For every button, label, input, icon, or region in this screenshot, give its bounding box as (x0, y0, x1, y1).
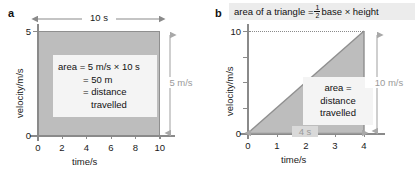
x-tick-label-0: 0 (28, 142, 48, 153)
callout-line-3: = distance (58, 86, 152, 99)
y-tick-5 (33, 31, 37, 32)
x-tick-label-3: 3 (325, 140, 345, 151)
x-tick-label-8: 8 (125, 142, 145, 153)
callout-line-1: area = (307, 82, 369, 95)
callout-line-3: travelled (307, 107, 369, 120)
callout-line-2: = 50 m (58, 74, 152, 87)
x-tick-label-2: 2 (52, 142, 72, 153)
fraction-denominator: 2 (314, 11, 320, 19)
y-axis-line (247, 24, 249, 139)
x-tick-0 (38, 135, 39, 139)
x-tick-label-6: 6 (101, 142, 121, 153)
header-formula-box: area of a triangle = 1 2 base × height (229, 3, 415, 20)
dimension-label-width: 10 s (82, 12, 116, 23)
dimension-label-height: 5 m/s (160, 77, 202, 88)
panel-a-letter: a (8, 7, 14, 19)
x-axis-title: time/s (72, 156, 97, 167)
callout-line-4: travelled (58, 99, 152, 112)
panel-b-letter: b (215, 7, 222, 19)
x-tick-4 (86, 135, 87, 139)
y-tick-minor-75 (243, 57, 247, 58)
x-tick-label-2: 2 (296, 140, 316, 151)
figure-velocity-time-graphs: a area = 5 m/s × 10 s = 50 m = distance … (0, 0, 415, 172)
x-axis-line (30, 135, 175, 137)
y-axis-title: velocity/m/s (14, 68, 25, 118)
x-axis-title: time/s (281, 154, 306, 165)
y-axis-line (37, 24, 39, 141)
dotted-guide-line-10 (249, 31, 363, 32)
callout-line-1: area = 5 m/s × 10 s (58, 61, 152, 74)
callout-area-calculation: area = 5 m/s × 10 s = 50 m = distance tr… (53, 55, 157, 117)
y-tick-minor-50 (243, 82, 247, 83)
y-tick-10 (243, 31, 247, 32)
y-tick-label-0: 0 (17, 130, 31, 141)
fraction-numerator: 1 (314, 4, 320, 11)
formula-suffix: base × height (321, 6, 378, 17)
x-tick-8 (135, 135, 136, 139)
x-tick-10 (159, 135, 160, 139)
y-tick-label-0: 0 (219, 128, 241, 139)
formula-prefix: area of a triangle = (234, 6, 313, 17)
x-tick-2 (62, 135, 63, 139)
y-tick-0 (33, 135, 37, 136)
dimension-label-base: 4 s (292, 126, 318, 137)
y-tick-minor-25 (243, 108, 247, 109)
callout-area-label: area = distance travelled (303, 77, 373, 125)
y-tick-label-5: 5 (17, 26, 31, 37)
dimension-label-height: 10 m/s (365, 77, 413, 88)
x-tick-6 (111, 135, 112, 139)
y-tick-label-10: 10 (219, 26, 241, 37)
x-tick-label-4: 4 (77, 142, 97, 153)
x-tick-label-1: 1 (267, 140, 287, 151)
fraction-one-half: 1 2 (314, 4, 320, 19)
panel-a: a area = 5 m/s × 10 s = 50 m = distance … (0, 0, 207, 172)
x-tick-label-0: 0 (238, 140, 258, 151)
x-tick-label-10: 10 (150, 142, 170, 153)
x-tick-label-4: 4 (354, 140, 374, 151)
panel-b: b area of a triangle = 1 2 base × height… (207, 0, 415, 172)
callout-line-2: distance (307, 95, 369, 108)
y-axis-title: velocity/m/s (224, 66, 235, 116)
